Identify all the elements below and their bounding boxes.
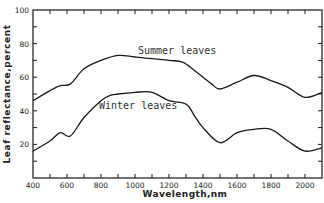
winter-leaves-line (33, 92, 322, 152)
x-axis-label: Wavelength,nm (110, 189, 260, 199)
plot-border (33, 10, 322, 178)
y-tick-label: 40 (19, 107, 29, 116)
data-lines (33, 55, 322, 151)
summer-leaves-line (33, 55, 322, 100)
x-tick-label: 1800 (261, 181, 280, 190)
y-tick-label: 100 (15, 6, 30, 15)
plot-frame (33, 10, 322, 178)
x-tick-label: 400 (26, 181, 41, 190)
x-tick-label: 800 (94, 181, 109, 190)
y-tick-label: 80 (19, 40, 29, 49)
summer-leaves-label: Summer leaves (138, 45, 216, 56)
axis-ticks (33, 10, 322, 178)
y-tick-label: 20 (19, 140, 29, 149)
x-tick-label: 2000 (295, 181, 314, 190)
y-axis-label: Leaf reflectance,percent (2, 24, 14, 164)
y-tick-label: 60 (19, 73, 29, 82)
winter-leaves-label: Winter leaves (99, 100, 177, 111)
x-tick-label: 600 (60, 181, 75, 190)
